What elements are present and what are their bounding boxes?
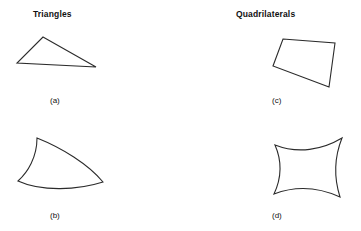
shape-b-curved-triangle (18, 138, 103, 189)
caption-c: (c) (272, 96, 281, 105)
caption-d: (d) (272, 211, 282, 220)
shape-c-quadrilateral (273, 39, 335, 87)
shape-d-curved-quadrilateral (274, 138, 342, 197)
geometry-figure: Triangles Quadrilaterals (a) (b) (c) (d) (0, 0, 361, 231)
caption-b: (b) (50, 211, 60, 220)
caption-a: (a) (50, 96, 60, 105)
shapes-canvas (0, 0, 361, 231)
shape-a-triangle (17, 37, 96, 67)
column-title-triangles: Triangles (33, 9, 72, 19)
column-title-quadrilaterals: Quadrilaterals (236, 9, 295, 19)
